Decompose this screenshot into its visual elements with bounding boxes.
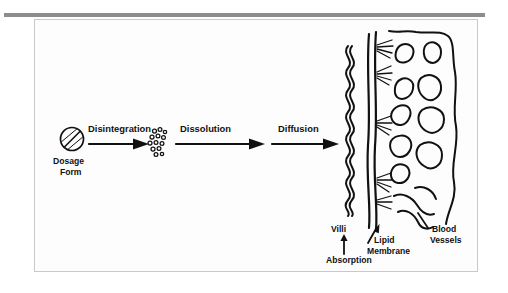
label-disintegration: Disintegration	[88, 123, 151, 134]
label-villi: Villi	[331, 224, 346, 234]
arrow-right-icon	[176, 138, 265, 149]
tablet-icon	[61, 128, 84, 151]
label-absorption: Absorption	[326, 255, 372, 265]
figure-page: Disintegration Dissolution Diffusion Dos…	[0, 0, 508, 293]
label-dosage-form-line1: Dosage	[53, 156, 84, 166]
lipid-membrane-icon	[368, 32, 393, 230]
label-diffusion: Diffusion	[278, 123, 319, 134]
absorption-diagram: Disintegration Dissolution Diffusion Dos…	[0, 0, 508, 293]
label-blood-vessels-line2: Vessels	[430, 235, 462, 245]
label-lipid-membrane-line1: Lipid	[374, 235, 395, 245]
arrow-right-icon	[272, 138, 339, 149]
arrow-right-icon	[89, 138, 149, 149]
label-dosage-form-line2: Form	[60, 167, 82, 177]
arrow-up-icon	[340, 234, 347, 254]
blood-vessels-icon	[389, 31, 457, 229]
label-lipid-membrane-line2: Membrane	[367, 246, 410, 256]
label-blood-vessels-line1: Blood	[432, 224, 456, 234]
villi-wave-icon	[346, 46, 354, 216]
label-dissolution: Dissolution	[180, 123, 231, 134]
